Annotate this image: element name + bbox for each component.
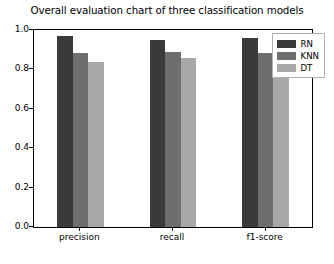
- y-axis-tick-label: 0.6: [3, 103, 29, 113]
- bar-dt-precision: [88, 62, 104, 227]
- bar-rn-f1-score: [242, 38, 258, 227]
- chart-figure: Overall evaluation chart of three classi…: [0, 0, 334, 264]
- legend-item-dt[interactable]: DT: [277, 62, 320, 73]
- bar-knn-f1-score: [258, 53, 274, 227]
- x-axis-tick-label: recall: [160, 232, 185, 242]
- y-axis-tick-label: 0.4: [3, 142, 29, 152]
- bars-layer: [34, 30, 312, 227]
- y-axis-tick-label: 0.2: [3, 182, 29, 192]
- bar-rn-recall: [150, 40, 166, 227]
- bar-dt-recall: [181, 58, 197, 227]
- legend-swatch-icon: [277, 64, 296, 72]
- bar-knn-recall: [165, 52, 181, 227]
- legend-label: DT: [301, 63, 313, 73]
- legend-swatch-icon: [277, 52, 296, 60]
- legend-label: RN: [301, 39, 313, 49]
- x-axis-tick-mark: [265, 227, 266, 231]
- bar-dt-f1-score: [273, 60, 289, 227]
- y-axis-tick-labels: 0.00.20.40.60.81.0: [0, 0, 29, 264]
- bar-rn-precision: [57, 36, 73, 227]
- y-axis-tick-mark: [29, 108, 33, 109]
- legend-swatch-icon: [277, 40, 296, 48]
- y-axis-tick-mark: [29, 68, 33, 69]
- y-axis-tick-mark: [29, 187, 33, 188]
- legend-item-knn[interactable]: KNN: [277, 50, 320, 61]
- y-axis-tick-mark: [29, 29, 33, 30]
- x-axis-tick-mark: [172, 227, 173, 231]
- y-axis-tick-label: 0.8: [3, 63, 29, 73]
- legend-item-rn[interactable]: RN: [277, 38, 320, 49]
- y-axis-tick-mark: [29, 147, 33, 148]
- legend-label: KNN: [301, 51, 320, 61]
- chart-legend: RNKNNDT: [272, 33, 326, 78]
- x-axis-tick-label: precision: [59, 232, 100, 242]
- bar-knn-precision: [73, 53, 89, 227]
- x-axis-tick-mark: [79, 227, 80, 231]
- y-axis-tick-label: 1.0: [3, 24, 29, 34]
- x-axis-tick-label: f1-score: [246, 232, 282, 242]
- chart-title: Overall evaluation chart of three classi…: [0, 4, 334, 16]
- y-axis-tick-mark: [29, 226, 33, 227]
- y-axis-tick-label: 0.0: [3, 221, 29, 231]
